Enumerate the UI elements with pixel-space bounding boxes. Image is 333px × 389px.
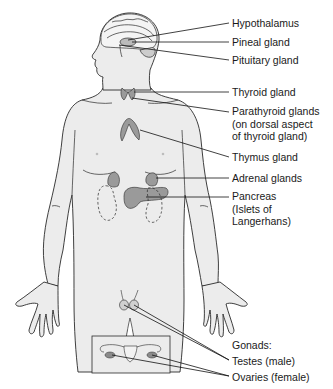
label-pancreas: Pancreas (Islets of Langerhans) <box>232 190 291 228</box>
label-parathyroid-glands: Parathyroid glands (on dorsal aspect of … <box>232 105 320 143</box>
label-ovaries: Ovaries (female) <box>232 371 310 383</box>
label-line: Langerhans) <box>232 215 291 228</box>
label-line: (Islets of <box>232 203 291 216</box>
label-line: (on dorsal aspect <box>232 118 320 131</box>
female-reproductive-inset <box>92 336 170 373</box>
label-testes: Testes (male) <box>232 355 295 367</box>
label-thyroid-gland: Thyroid gland <box>232 86 296 98</box>
label-gonads-heading: Gonads: <box>232 339 272 351</box>
nipple-left <box>96 153 99 156</box>
nipple-right <box>162 153 165 156</box>
label-thymus-gland: Thymus gland <box>232 151 298 163</box>
label-pituitary-gland: Pituitary gland <box>232 54 299 66</box>
adrenal-gland-right <box>146 173 158 186</box>
label-adrenal-glands: Adrenal glands <box>232 172 302 184</box>
endocrine-diagram: Hypothalamus Pineal gland Pituitary glan… <box>0 0 333 389</box>
label-pineal-gland: Pineal gland <box>232 36 290 48</box>
label-line: Pancreas <box>232 190 291 203</box>
label-line: Parathyroid glands <box>232 105 320 118</box>
label-hypothalamus: Hypothalamus <box>232 17 299 29</box>
label-line: of thyroid gland) <box>232 130 320 143</box>
